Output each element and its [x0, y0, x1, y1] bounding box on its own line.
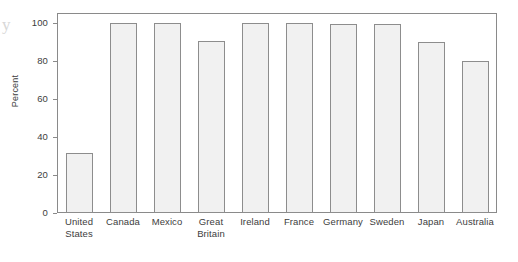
- x-label-line1: Great: [199, 216, 223, 227]
- bar-mexico: [154, 23, 181, 213]
- y-tick-label: 80: [37, 55, 48, 66]
- bar-japan: [418, 42, 445, 213]
- bar-great-britain: [198, 41, 225, 213]
- x-label-line1: Canada: [106, 216, 140, 227]
- page-margin-artifact: y: [2, 14, 14, 36]
- x-label-line2: Britain: [182, 228, 240, 240]
- y-tick-label: 20: [37, 169, 48, 180]
- y-axis-title: Percent: [10, 61, 24, 121]
- y-tick-label: 60: [37, 93, 48, 104]
- bar-france: [286, 23, 313, 213]
- x-label-line1: Sweden: [370, 216, 405, 227]
- x-label-line1: Mexico: [152, 216, 183, 227]
- x-label-line1: Japan: [418, 216, 444, 227]
- y-tick-label: 100: [32, 17, 48, 28]
- y-tick-label: 40: [37, 131, 48, 142]
- bar-chart: y Percent 020406080100 UnitedStatesCanad…: [0, 0, 518, 262]
- x-label-line1: Germany: [323, 216, 363, 227]
- bar-sweden: [374, 24, 401, 213]
- x-label-line1: United: [65, 216, 93, 227]
- x-label-line1: France: [284, 216, 314, 227]
- bar-ireland: [242, 23, 269, 213]
- bars-layer: [57, 13, 497, 213]
- y-tick-mark: [53, 213, 57, 214]
- x-label-line1: Australia: [456, 216, 494, 227]
- x-label-line2: States: [50, 228, 108, 240]
- bar-united-states: [66, 153, 93, 213]
- bar-canada: [110, 23, 137, 213]
- bar-germany: [330, 24, 357, 213]
- x-axis-labels: UnitedStatesCanadaMexicoGreatBritainIrel…: [57, 216, 497, 256]
- x-label-line1: Ireland: [240, 216, 270, 227]
- bar-australia: [462, 61, 489, 213]
- y-tick-label: 0: [43, 207, 48, 218]
- x-label-australia: Australia: [446, 216, 504, 228]
